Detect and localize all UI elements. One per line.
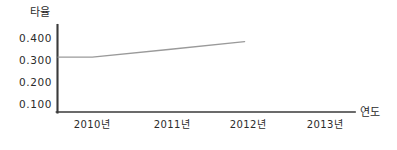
line-chart: 타율 0.400 0.300 0.200 0.100 2010년 2011년 2… [0, 0, 397, 150]
x-axis-title: 연도 [360, 107, 381, 118]
y-tick-label-0300: 0.300 [8, 55, 52, 66]
x-tick-label-2012: 2012년 [230, 120, 266, 130]
x-tick-label-2011: 2011년 [154, 120, 190, 130]
y-tick-label-0100: 0.100 [8, 99, 52, 110]
y-axis-title: 타율 [30, 7, 51, 18]
y-tick-label-0200: 0.200 [8, 77, 52, 88]
data-series-line [58, 42, 245, 58]
x-tick-label-2013: 2013년 [307, 120, 343, 130]
y-tick-label-0400: 0.400 [8, 33, 52, 44]
x-tick-label-2010: 2010년 [74, 120, 110, 130]
